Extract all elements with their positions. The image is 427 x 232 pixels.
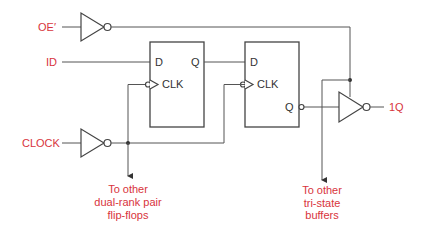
output-label: 1Q [389, 101, 404, 113]
ff1-clk-bubble-icon [146, 82, 151, 87]
ff2-q-bubble-icon [299, 105, 304, 110]
ff1-q-pin: Q [191, 56, 200, 68]
clock-to-ff1-wire [128, 85, 145, 144]
ff1-d-pin: D [155, 56, 163, 68]
svg-text:flip-flops: flip-flops [108, 209, 149, 221]
buffer-branch-note: To other tri-state buffers [302, 184, 342, 221]
circuit-diagram: OE′ ID D Q CLK D CLK Q 1Q CLOCK [0, 0, 427, 232]
clock-inverter-icon [81, 129, 111, 157]
flipflop-1: D Q CLK [146, 42, 205, 127]
tristate-buffer-icon [339, 92, 370, 122]
svg-text:tri-state: tri-state [304, 197, 341, 209]
ff2-clk-pin: CLK [257, 78, 279, 90]
id-input-label: ID [46, 56, 57, 68]
clock-input-label: CLOCK [22, 137, 61, 149]
oe-input-label: OE′ [38, 21, 56, 33]
flipflop-2: D CLK Q [241, 42, 305, 127]
oe-branch-wire [322, 80, 350, 180]
ff2-d-pin: D [250, 56, 258, 68]
ff1-clk-pin: CLK [162, 78, 184, 90]
ff2-q-pin: Q [285, 101, 294, 113]
oe-inverter-icon [81, 13, 111, 41]
svg-text:dual-rank pair: dual-rank pair [94, 196, 162, 208]
svg-text:To other: To other [108, 183, 148, 195]
svg-text:To other: To other [302, 184, 342, 196]
svg-text:buffers: buffers [305, 209, 339, 221]
ff-branch-note: To other dual-rank pair flip-flops [94, 183, 162, 221]
